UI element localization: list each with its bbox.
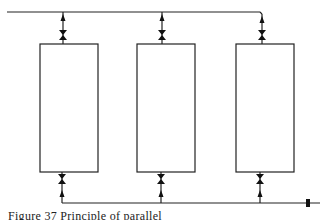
- column-1: [40, 44, 98, 172]
- arrow-up-icon: [258, 190, 263, 197]
- valve-icon: [158, 35, 166, 40]
- valve-icon: [256, 179, 264, 184]
- arrow-up-icon: [60, 190, 65, 197]
- valve-icon: [258, 30, 266, 35]
- arrow-up-icon: [160, 14, 165, 21]
- column-3: [236, 44, 294, 172]
- parallel-columns-diagram: [0, 0, 330, 220]
- column-2: [137, 44, 195, 172]
- valve-icon: [157, 174, 165, 179]
- valve-icon: [59, 30, 67, 35]
- inlet-marker-icon: [306, 199, 310, 207]
- valve-icon: [59, 35, 67, 40]
- arrow-up-icon: [159, 190, 164, 197]
- valve-icon: [58, 174, 66, 179]
- valve-icon: [158, 30, 166, 35]
- arrow-up-icon: [61, 14, 66, 21]
- figure-caption: Figure 37 Principle of parallel: [8, 209, 162, 220]
- valve-icon: [58, 179, 66, 184]
- valve-icon: [256, 174, 264, 179]
- arrow-up-icon: [260, 16, 265, 23]
- valve-icon: [258, 35, 266, 40]
- top-header-pipe: [7, 12, 262, 14]
- valve-icon: [157, 179, 165, 184]
